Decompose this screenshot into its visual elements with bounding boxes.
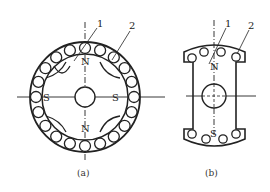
pole-label-n-bottom: N xyxy=(81,123,90,134)
panel-a-four-pole-rotor xyxy=(17,22,165,160)
pole-label-s-left: S xyxy=(43,92,50,103)
motor-cross-section-diagram: N N S S 1 2 (a) xyxy=(0,0,270,192)
pole-arc-bottom-right xyxy=(100,116,120,132)
pole-label-n: N xyxy=(210,61,219,72)
pole-arc-top-left xyxy=(54,66,70,73)
pole-arc-top-right xyxy=(100,62,120,78)
callout-2-label: 2 xyxy=(129,20,135,31)
pole-label-n-top: N xyxy=(81,56,90,67)
caption-a: (a) xyxy=(77,168,89,178)
shaft-circle xyxy=(75,87,95,107)
callout-2-label: 2 xyxy=(248,20,254,31)
callout-1-label: 1 xyxy=(225,18,231,29)
callout-1-label: 1 xyxy=(97,18,103,29)
caption-b: (b) xyxy=(205,168,218,178)
pole-label-s-right: S xyxy=(112,92,119,103)
pole-label-s: S xyxy=(210,128,217,139)
panel-b-two-pole-rotor xyxy=(184,20,256,146)
